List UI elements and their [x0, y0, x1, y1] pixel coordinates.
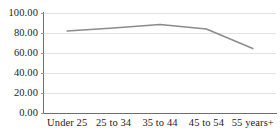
- x-axis-category-label: Under 25: [44, 116, 90, 136]
- y-axis-tick-label: 20.00: [14, 88, 38, 98]
- y-axis-tick-label: 100.00: [9, 8, 38, 18]
- plot-area: [44, 13, 276, 113]
- x-axis-category-label: 45 to 54: [183, 116, 229, 136]
- line-chart: 0.0020.0040.0060.0080.00100.00 Under 252…: [0, 0, 280, 138]
- y-axis-tick-mark: [41, 113, 44, 114]
- y-axis-tick-label: 80.00: [14, 28, 38, 38]
- series-line-0: [67, 25, 253, 49]
- x-axis-category-label: 55 years+: [230, 116, 276, 136]
- x-axis-category-label: 35 to 44: [137, 116, 183, 136]
- x-axis-line: [43, 113, 277, 114]
- y-axis-tick-label: 60.00: [14, 48, 38, 58]
- y-axis-tick-label: 40.00: [14, 68, 38, 78]
- y-axis-tick-labels: 0.0020.0040.0060.0080.00100.00: [0, 0, 41, 138]
- x-axis-category-labels: Under 2525 to 3435 to 4445 to 5455 years…: [44, 116, 276, 136]
- series-layer: [44, 13, 276, 113]
- y-axis-tick-label: 0.00: [19, 108, 38, 118]
- x-axis-category-label: 25 to 34: [90, 116, 136, 136]
